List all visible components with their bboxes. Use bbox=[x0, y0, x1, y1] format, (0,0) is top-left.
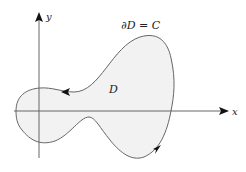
region-d bbox=[16, 35, 174, 158]
x-axis-label: x bbox=[232, 106, 238, 117]
diagram-canvas: y x D ∂D = C bbox=[0, 0, 246, 172]
y-axis-label: y bbox=[45, 11, 52, 22]
boundary-label: ∂D = C bbox=[121, 19, 161, 32]
region-label: D bbox=[108, 83, 118, 96]
